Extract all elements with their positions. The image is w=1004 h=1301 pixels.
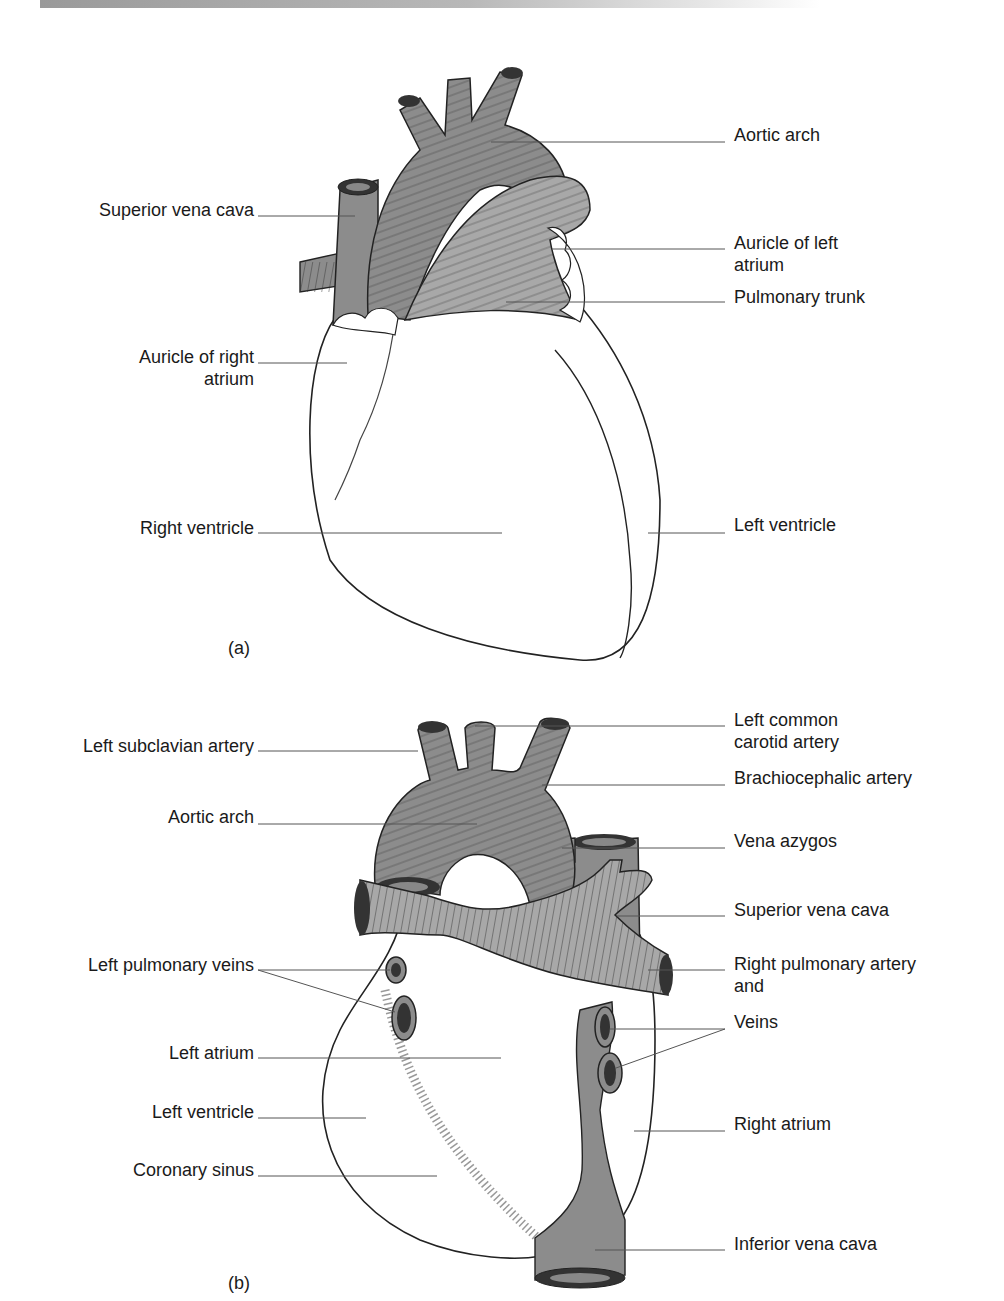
heart-diagram: [0, 0, 1004, 1301]
label-left-atrium-b: Left atrium: [169, 1042, 254, 1064]
figure-b-posterior-view: [258, 718, 725, 1288]
label-pulmonary-trunk-a: Pulmonary trunk: [734, 286, 865, 308]
label-line: atrium: [139, 368, 254, 390]
label-line: and: [734, 975, 916, 997]
heart-outline-a: [310, 296, 660, 660]
label-superior-vena-cava-a: Superior vena cava: [99, 199, 254, 221]
caption-a: (a): [228, 638, 250, 659]
label-vena-azygos-b: Vena azygos: [734, 830, 837, 852]
label-brachiocephalic-b: Brachiocephalic artery: [734, 767, 912, 789]
label-auricle-left-atrium-a: Auricle of left atrium: [734, 232, 838, 276]
label-aortic-arch-a: Aortic arch: [734, 124, 820, 146]
label-line: Left common: [734, 709, 839, 731]
figure-a-anterior-view: [258, 67, 725, 660]
label-left-ventricle-a: Left ventricle: [734, 514, 836, 536]
label-left-subclavian-b: Left subclavian artery: [83, 735, 254, 757]
label-line: Right pulmonary artery: [734, 953, 916, 975]
label-line: Auricle of left: [734, 232, 838, 254]
label-coronary-sinus-b: Coronary sinus: [133, 1159, 254, 1181]
label-right-pulmonary-artery-b: Right pulmonary artery and: [734, 953, 916, 997]
label-line: atrium: [734, 254, 838, 276]
label-inferior-vena-cava-b: Inferior vena cava: [734, 1233, 877, 1255]
label-line: Auricle of right: [139, 346, 254, 368]
label-line: carotid artery: [734, 731, 839, 753]
caption-b: (b): [228, 1273, 250, 1294]
label-superior-vena-cava-b: Superior vena cava: [734, 899, 889, 921]
label-left-common-carotid-b: Left common carotid artery: [734, 709, 839, 753]
label-veins-b: Veins: [734, 1011, 778, 1033]
label-auricle-right-atrium-a: Auricle of right atrium: [139, 346, 254, 390]
label-right-atrium-b: Right atrium: [734, 1113, 831, 1135]
label-left-ventricle-b: Left ventricle: [152, 1101, 254, 1123]
label-left-pulmonary-veins-b: Left pulmonary veins: [88, 954, 254, 976]
label-aortic-arch-b: Aortic arch: [168, 806, 254, 828]
label-right-ventricle-a: Right ventricle: [140, 517, 254, 539]
